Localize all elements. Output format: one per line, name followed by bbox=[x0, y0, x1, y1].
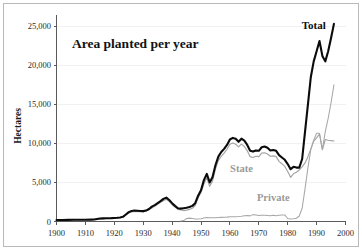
x-tick-label: 1960 bbox=[221, 228, 238, 238]
plot-area: 05,00010,00015,00020,00025,000 190019101… bbox=[0, 0, 362, 250]
y-tick-label: 25,000 bbox=[28, 21, 51, 31]
y-tick-label: 5,000 bbox=[32, 177, 51, 187]
x-tick-label: 1930 bbox=[135, 228, 152, 238]
y-tick-labels: 05,00010,00015,00020,00025,000 bbox=[28, 21, 51, 226]
x-tick-label: 1910 bbox=[77, 228, 94, 238]
chart-figure: 05,00010,00015,00020,00025,000 190019101… bbox=[0, 0, 362, 250]
x-tick-label: 1900 bbox=[48, 228, 65, 238]
y-tick-label: 15,000 bbox=[28, 99, 51, 109]
x-tick-labels: 1900191019201930194019501960197019801990… bbox=[48, 228, 354, 238]
y-tick-label: 10,000 bbox=[28, 138, 51, 148]
y-tick-label: 0 bbox=[47, 217, 51, 227]
x-tick-label: 1920 bbox=[106, 228, 123, 238]
x-tick-label: 1940 bbox=[164, 228, 181, 238]
y-axis-title: Hectares bbox=[13, 108, 23, 144]
y-axis-title-group: Hectares bbox=[13, 108, 23, 144]
chart-title: Area planted per year bbox=[72, 36, 199, 51]
annotation-private: Private bbox=[257, 192, 290, 203]
chart-title-group: Area planted per year bbox=[72, 36, 199, 51]
x-tick-label: 1980 bbox=[279, 228, 296, 238]
x-tick-label: 1990 bbox=[308, 228, 325, 238]
x-tick-label: 1950 bbox=[193, 228, 210, 238]
series-line-total bbox=[57, 24, 334, 220]
data-series bbox=[57, 24, 334, 221]
annotation-state: State bbox=[230, 163, 253, 174]
series-line-state bbox=[57, 134, 334, 220]
y-tick-label: 20,000 bbox=[28, 60, 51, 70]
series-annotations: TotalStatePrivate bbox=[230, 19, 326, 203]
chart-svg: 05,00010,00015,00020,00025,000 190019101… bbox=[0, 0, 362, 250]
annotation-total: Total bbox=[302, 19, 326, 31]
x-tick-label: 2000 bbox=[337, 228, 354, 238]
x-tick-label: 1970 bbox=[250, 228, 267, 238]
